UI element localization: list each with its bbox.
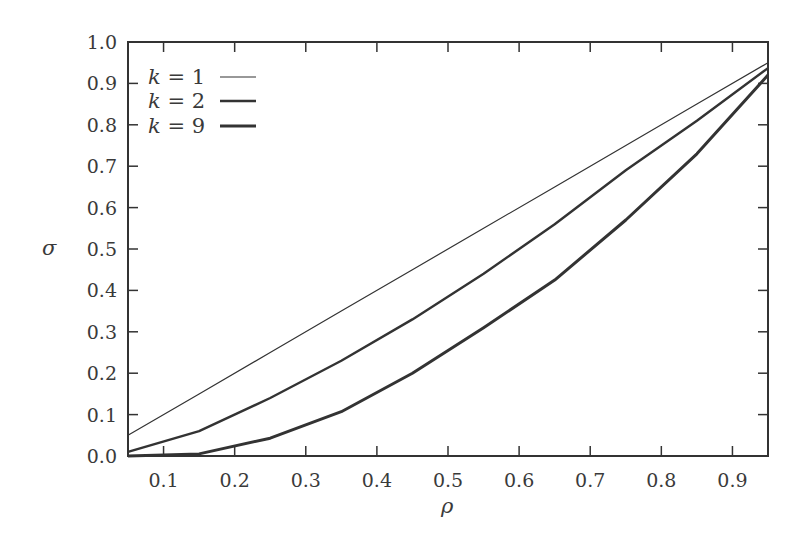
y-tick-label: 0.9 bbox=[87, 72, 117, 94]
y-tick-label: 0.0 bbox=[87, 445, 117, 467]
x-tick-label: 0.8 bbox=[646, 469, 676, 491]
legend-label-k1: k = 1 bbox=[148, 65, 205, 89]
y-tick-label: 0.1 bbox=[87, 404, 117, 426]
y-tick-label: 0.2 bbox=[87, 362, 117, 384]
y-axis-label: σ bbox=[42, 236, 57, 260]
y-tick-label: 0.4 bbox=[87, 279, 117, 301]
x-tick-label: 0.3 bbox=[291, 469, 321, 491]
legend-label-k9: k = 9 bbox=[148, 114, 205, 138]
y-tick-label: 0.7 bbox=[87, 155, 117, 177]
x-tick-label: 0.7 bbox=[575, 469, 605, 491]
x-tick-label: 0.9 bbox=[717, 469, 747, 491]
y-tick-label: 0.8 bbox=[87, 114, 117, 136]
y-tick-label: 1.0 bbox=[87, 31, 117, 53]
y-tick-label: 0.3 bbox=[87, 321, 117, 343]
x-tick-label: 0.5 bbox=[433, 469, 463, 491]
x-tick-label: 0.1 bbox=[148, 469, 178, 491]
legend: k = 1 k = 2 k = 9 bbox=[148, 65, 256, 138]
x-axis-ticks: 0.10.20.30.40.50.60.70.80.9 bbox=[148, 42, 747, 491]
x-axis-label: ρ bbox=[440, 494, 454, 518]
x-tick-label: 0.6 bbox=[504, 469, 534, 491]
x-tick-label: 0.2 bbox=[220, 469, 250, 491]
line-chart: 0.00.10.20.30.40.50.60.70.80.91.0 0.10.2… bbox=[0, 0, 806, 536]
y-tick-label: 0.5 bbox=[87, 238, 117, 260]
legend-label-k2: k = 2 bbox=[148, 89, 205, 113]
data-series bbox=[128, 63, 768, 456]
x-tick-label: 0.4 bbox=[362, 469, 392, 491]
y-tick-label: 0.6 bbox=[87, 197, 117, 219]
series-line-2 bbox=[128, 75, 768, 456]
series-line-0 bbox=[128, 63, 768, 436]
